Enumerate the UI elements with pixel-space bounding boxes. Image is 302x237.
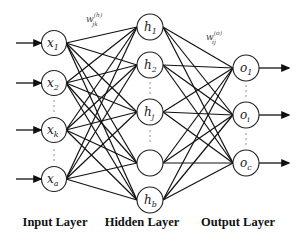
input-node-x1: x1 <box>42 31 67 56</box>
input-hidden-edges <box>66 27 137 200</box>
output-node-o1: o1 <box>233 55 259 81</box>
hidden-layer-label: Hidden Layer <box>105 215 180 229</box>
input-node-xa: xa <box>42 167 67 192</box>
output-node-oi: oi <box>233 102 259 128</box>
input-layer-nodes: x1 x2 xk xa <box>42 31 67 192</box>
weight-label-output: w(o)ij <box>206 29 223 46</box>
hidden-layer-nodes: h1 h2 hj hb <box>137 14 163 213</box>
hidden-node-empty <box>137 150 163 176</box>
weight-label-hidden: w(h)jk <box>86 11 103 28</box>
neural-network-diagram: x1 x2 xk xa h1 h2 <box>0 0 302 237</box>
hidden-node-hj: hj <box>137 99 163 125</box>
output-node-oc: oc <box>233 150 259 176</box>
hidden-node-hb: hb <box>137 187 163 213</box>
input-node-x2: x2 <box>42 71 67 96</box>
output-arrows <box>259 68 289 163</box>
input-layer-label: Input Layer <box>23 215 88 229</box>
input-node-xk: xk <box>42 118 67 143</box>
output-layer-label: Output Layer <box>201 215 275 229</box>
hidden-node-h1: h1 <box>137 14 163 40</box>
input-arrows <box>16 43 41 179</box>
output-layer-nodes: o1 oi oc <box>233 55 259 176</box>
hidden-node-h2: h2 <box>137 52 163 78</box>
hidden-output-edges <box>163 27 233 200</box>
